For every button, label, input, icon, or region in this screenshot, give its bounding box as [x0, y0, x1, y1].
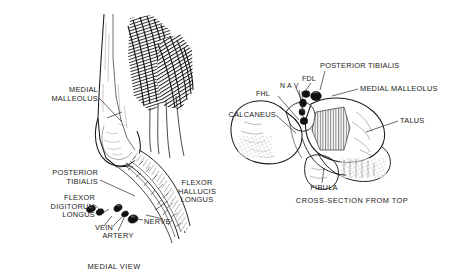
label-nerve: NERVE	[144, 218, 184, 227]
label-flexor-digitorum-longus: FLEXOR DIGITORUM LONGUS	[10, 194, 95, 220]
posterior-tibialis-oval-xs	[311, 91, 322, 100]
label-medial-malleolus: MEDIAL MALLEOLUS	[18, 86, 98, 103]
label-medial-malleolus-xs: MEDIAL MALLEOLUS	[360, 85, 464, 94]
label-calcaneus: CALCANEUS	[218, 111, 276, 120]
label-fibula: FIBULA	[304, 184, 344, 193]
label-posterior-tibialis: POSTERIOR TIBIALIS	[28, 169, 98, 186]
anatomy-figure: MEDIAL MALLEOLUS POSTERIOR TIBIALIS FLEX…	[0, 0, 470, 276]
fdl-oval-xs	[302, 91, 310, 98]
label-talus: TALUS	[400, 117, 444, 126]
caption-cross-section: CROSS-SECTION FROM TOP	[284, 196, 420, 205]
caption-medial-view: MEDIAL VIEW	[66, 262, 162, 271]
vein-oval	[113, 203, 124, 213]
medial-view-artwork	[86, 10, 205, 243]
label-artery: ARTERY	[96, 232, 140, 241]
fhl-oval-xs	[300, 118, 308, 125]
label-posterior-tibialis-xs: POSTERIOR TIBIALIS	[320, 62, 430, 71]
label-fhl: FHL	[256, 90, 280, 99]
label-nav: N A V	[280, 82, 310, 91]
illustration-artwork	[0, 0, 470, 276]
label-flexor-hallucis-longus: FLEXOR HALLUCIS LONGUS	[168, 179, 226, 205]
